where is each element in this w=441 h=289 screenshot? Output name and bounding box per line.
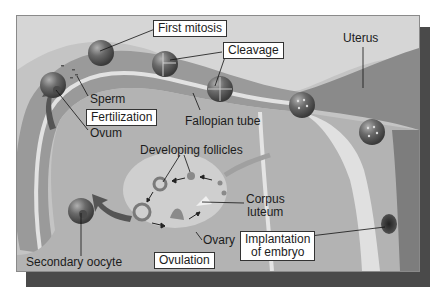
label-fallopian-tube: Fallopian tube	[185, 115, 260, 128]
first-mitosis-cell	[88, 40, 114, 66]
label-fertilization: Fertilization	[86, 109, 157, 126]
follicle-2	[187, 172, 195, 180]
ovum-cell	[40, 72, 66, 98]
implanted-embryo	[381, 214, 397, 234]
label-corpus-line2: luteum	[247, 205, 283, 219]
label-developing-follicles: Developing follicles	[140, 144, 243, 157]
cleavage-cell	[152, 51, 178, 77]
label-ovum: Ovum	[90, 127, 122, 140]
label-uterus: Uterus	[343, 32, 378, 45]
label-first-mitosis: First mitosis	[153, 20, 227, 37]
label-sperm: Sperm	[90, 93, 125, 106]
label-implantation-line2: of embryo	[251, 245, 304, 259]
label-corpus-line1: Corpus	[246, 192, 285, 206]
label-cleavage: Cleavage	[223, 42, 284, 59]
label-ovary: Ovary	[203, 234, 235, 247]
label-secondary-oocyte: Secondary oocyte	[26, 256, 122, 269]
label-implantation: Implantation of embryo	[240, 231, 315, 261]
blastocyst	[359, 119, 385, 145]
label-implantation-line1: Implantation	[245, 232, 310, 246]
label-corpus-luteum: Corpus luteum	[246, 193, 285, 219]
label-ovulation: Ovulation	[154, 252, 215, 269]
morula	[289, 92, 315, 118]
